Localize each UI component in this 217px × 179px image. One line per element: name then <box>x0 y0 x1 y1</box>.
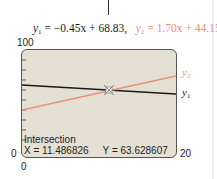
calculator-screen: Intersection X = 11.486826Y = 63.628607 <box>21 49 177 158</box>
y-axis-max-label: 100 <box>17 37 34 48</box>
legend-y2: y2 <box>182 66 190 80</box>
equation-y1: y1 = −0.45x + 68.83, <box>33 22 127 34</box>
x-readout: X = 11.486826 <box>24 145 89 156</box>
y-readout: Y = 63.628607 <box>103 145 168 156</box>
x-axis-max-label: 20 <box>180 148 191 159</box>
y-axis-min-label: 0 <box>11 148 17 159</box>
top-divider-line <box>108 0 109 15</box>
legend-y1: y1 <box>182 86 190 100</box>
equations-caption: y1 = −0.45x + 68.83, y2 = 1.70x + 44.15 <box>33 22 217 36</box>
equation-y2: y2 = 1.70x + 44.15 <box>136 22 217 34</box>
intersection-readout: X = 11.486826Y = 63.628607 <box>24 145 168 156</box>
x-axis-min-label: 0 <box>21 161 27 172</box>
intersection-label: Intersection <box>24 134 76 145</box>
y-axis-ticks <box>22 60 26 140</box>
